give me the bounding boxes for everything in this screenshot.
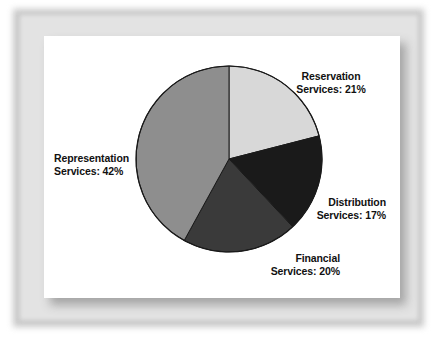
pie-label-financial-line2: Services: 20% [271,265,340,278]
pie-label-representation: Representation Services: 42% [54,152,129,177]
pie-label-reservation-line2: Services: 21% [296,83,365,96]
pie-label-distribution-line2: Services: 17% [317,209,386,222]
pie-label-distribution-line1: Distribution [317,196,386,209]
pie-label-representation-line2: Services: 42% [54,165,129,178]
pie-chart: Reservation Services: 21% Distribution S… [0,0,444,348]
pie-label-reservation: Reservation Services: 21% [296,70,365,95]
page-root: Reservation Services: 21% Distribution S… [0,0,444,348]
pie-label-distribution: Distribution Services: 17% [317,196,386,221]
pie-label-representation-line1: Representation [54,152,129,165]
pie-slice-group [136,66,322,252]
pie-label-financial: Financial Services: 20% [271,252,340,277]
pie-label-reservation-line1: Reservation [296,70,365,83]
pie-label-financial-line1: Financial [271,252,340,265]
